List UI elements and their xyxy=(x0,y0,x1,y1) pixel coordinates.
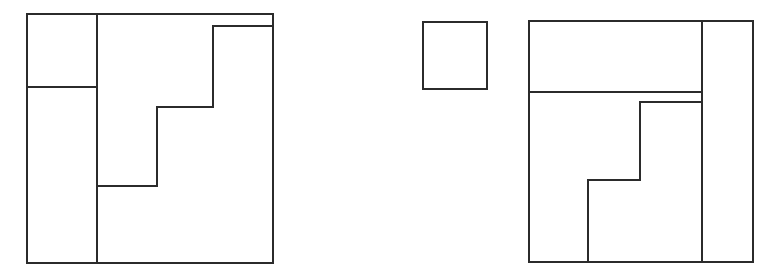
canvas-background xyxy=(0,0,779,280)
figure-canvas xyxy=(0,0,779,280)
